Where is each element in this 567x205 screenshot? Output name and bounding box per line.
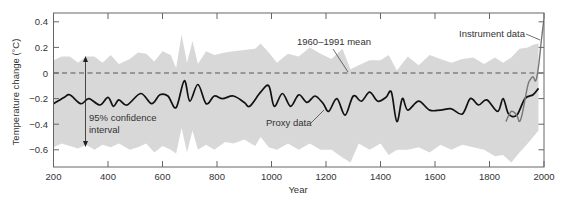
x-tick-label: 1000: [261, 171, 282, 182]
mean-annotation: 1960–1991 mean: [297, 36, 371, 47]
x-tick-label: 1800: [479, 171, 500, 182]
y-tick-label: −0.6: [29, 144, 48, 155]
x-tick-label: 1400: [370, 171, 391, 182]
y-tick-label: 0.2: [35, 42, 48, 53]
y-tick-label: −0.2: [29, 93, 48, 104]
instrument-pointer: [526, 34, 540, 40]
proxy-annotation: Proxy data: [266, 117, 312, 128]
temperature-chart: 0.40.20−0.2−0.4−0.6 20040060080010001200…: [0, 0, 567, 205]
y-tick-label: −0.4: [29, 119, 48, 130]
y-tick-label: 0.4: [35, 16, 48, 27]
y-axis-title: Temperature change (°C): [10, 39, 21, 146]
x-tick-label: 400: [100, 171, 116, 182]
x-tick-label: 1600: [424, 171, 445, 182]
x-axis-title: Year: [288, 184, 307, 195]
x-tick-label: 200: [46, 171, 62, 182]
instrument-annotation: Instrument data: [459, 28, 526, 39]
ci-annotation-line1: 95% confidence: [89, 112, 157, 123]
x-tick-label: 800: [209, 171, 225, 182]
x-tick-label: 2000: [533, 171, 554, 182]
x-tick-label: 1200: [315, 171, 336, 182]
x-tick-label: 600: [155, 171, 171, 182]
ci-annotation-line2: interval: [89, 124, 120, 135]
y-tick-label: 0: [43, 68, 48, 79]
